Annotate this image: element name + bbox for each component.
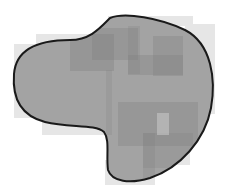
- overlay-rect: [157, 113, 169, 135]
- blob-diagram: [0, 0, 225, 191]
- overlay-rect: [106, 70, 112, 135]
- overlay-rect: [153, 36, 183, 76]
- diagram-canvas: [0, 0, 225, 191]
- overlay-rect: [143, 133, 155, 178]
